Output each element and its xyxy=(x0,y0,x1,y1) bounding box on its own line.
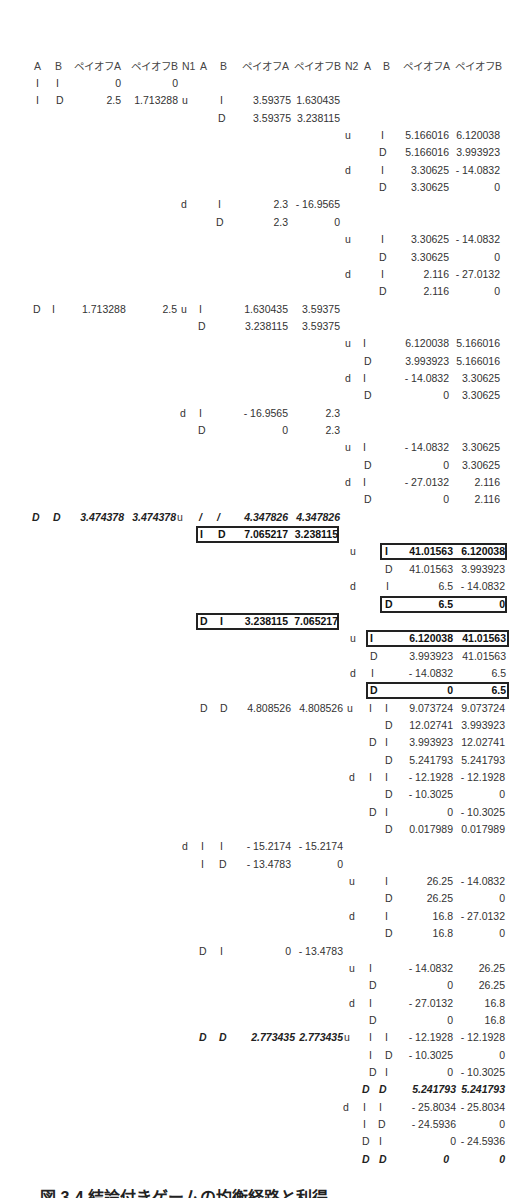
table-row: ID- 24.59360 xyxy=(0,1116,532,1133)
table-row: DI3.99392312.02741 xyxy=(0,734,532,751)
table-row: D3.99392341.01563 xyxy=(0,648,532,665)
table-cell: d xyxy=(181,196,187,213)
header-b3: B xyxy=(383,58,390,75)
table-cell: d xyxy=(345,162,351,179)
table-row: D16.80 xyxy=(0,925,532,942)
table-cell: u xyxy=(347,700,353,717)
table-row: dI2.116- 27.0132 xyxy=(0,266,532,283)
table-row: D5.1660163.993923 xyxy=(0,144,532,161)
table-row: D3.2381153.59375 xyxy=(0,318,532,335)
header-a2: A xyxy=(200,58,207,75)
table-cell: 1.713288 xyxy=(98,92,178,109)
table-cell: 6.120038 xyxy=(420,127,500,144)
table-cell: - 10.3025 xyxy=(425,804,505,821)
table-cell: 12.02741 xyxy=(425,734,505,751)
table-row: uI- 14.08323.30625 xyxy=(0,439,532,456)
header-a3: A xyxy=(364,58,371,75)
table-cell: - 25.8034 xyxy=(425,1099,505,1116)
table-row: D2.30 xyxy=(0,214,532,231)
table-cell: u xyxy=(345,335,351,352)
header-payoff-b1: ペイオフB xyxy=(131,58,178,75)
table-row: DI3.2381157.065217 xyxy=(0,613,532,630)
table-cell: I xyxy=(369,1047,372,1064)
table-row: dI16.8- 27.0132 xyxy=(0,908,532,925)
table-cell: - 27.0132 xyxy=(425,908,505,925)
table-cell: 4.347826 xyxy=(260,509,340,526)
table-cell: d xyxy=(345,266,351,283)
table-cell: I xyxy=(363,1099,366,1116)
table-cell: 3.59375 xyxy=(260,318,340,335)
table-cell: 3.993923 xyxy=(425,717,505,734)
table-cell: u xyxy=(345,439,351,456)
table-cell: 3.30625 xyxy=(420,457,500,474)
table-row: DD2.7734352.773435uII- 12.1928- 12.1928 xyxy=(0,1029,532,1046)
table-row: dI- 14.08326.5 xyxy=(0,665,532,682)
table-row: D02.3 xyxy=(0,422,532,439)
table-cell: u xyxy=(345,231,351,248)
table-row: D0.0179890.017989 xyxy=(0,821,532,838)
header-payoff-b3: ペイオフB xyxy=(455,58,502,75)
table-cell: - 12.1928 xyxy=(425,769,505,786)
table-cell: u xyxy=(350,543,356,560)
table-cell: 1.630435 xyxy=(260,92,340,109)
table-cell: - 24.5936 xyxy=(425,1133,505,1150)
table-cell: 0 xyxy=(425,1151,505,1168)
table-row: D026.25 xyxy=(0,977,532,994)
table-cell: 6.5 xyxy=(426,665,506,682)
table-cell: d xyxy=(180,405,186,422)
table-row: D3.306250 xyxy=(0,179,532,196)
table-cell: D xyxy=(198,318,206,335)
header-payoff-a1: ペイオフA xyxy=(74,58,121,75)
table-row: dII- 25.8034- 25.8034 xyxy=(0,1099,532,1116)
table-cell: 3.59375 xyxy=(260,301,340,318)
table-row: D3.9939235.166016 xyxy=(0,353,532,370)
table-row: DD00 xyxy=(0,1151,532,1168)
table-cell: 26.25 xyxy=(425,977,505,994)
table-cell: I xyxy=(369,960,372,977)
table-cell: - 12.1928 xyxy=(425,1029,505,1046)
table-cell: I xyxy=(201,856,204,873)
table-row: ID7.0652173.238115 xyxy=(0,526,532,543)
table-cell: 41.01563 xyxy=(426,648,506,665)
table-cell: 5.166016 xyxy=(420,353,500,370)
header-n2: N2 xyxy=(345,58,358,75)
table-cell: d xyxy=(345,370,351,387)
table-cell: I xyxy=(199,301,202,318)
table-cell: I xyxy=(199,405,202,422)
table-cell: 0 xyxy=(425,1047,505,1064)
table-cell: I xyxy=(363,1116,366,1133)
header-n1: N1 xyxy=(182,58,195,75)
table-row: ID- 13.47830 xyxy=(0,856,532,873)
table-cell: u xyxy=(350,630,356,647)
header-b2: B xyxy=(220,58,227,75)
table-cell: d xyxy=(350,665,356,682)
table-cell: u xyxy=(344,1029,350,1046)
table-row: uI41.015636.120038 xyxy=(0,543,532,560)
table-cell: - 13.4783 xyxy=(263,943,343,960)
table-cell: u xyxy=(349,873,355,890)
table-cell: 5.166016 xyxy=(420,335,500,352)
table-row: uI26.25- 14.0832 xyxy=(0,873,532,890)
table-cell: 0 xyxy=(260,214,340,231)
table-cell: D xyxy=(199,1029,207,1046)
table-row: dI- 16.95652.3 xyxy=(0,405,532,422)
table-cell: 26.25 xyxy=(425,960,505,977)
table-cell: 2.3 xyxy=(260,422,340,439)
table-cell: u xyxy=(181,301,187,318)
table-cell: 0 xyxy=(420,179,500,196)
table-cell: d xyxy=(350,578,356,595)
table-cell: 3.30625 xyxy=(420,370,500,387)
table-cell: d xyxy=(345,474,351,491)
table-cell: I xyxy=(52,301,55,318)
table-cell: I xyxy=(363,474,366,491)
table-row: D- 10.30250 xyxy=(0,786,532,803)
figure-caption: 図 3-4 結論付きゲームの均衡経路と利得 xyxy=(40,1186,500,1198)
header-payoff-a2: ペイオフA xyxy=(242,58,289,75)
table-cell: 2.5 xyxy=(97,301,177,318)
table-row: D2.1160 xyxy=(0,283,532,300)
table-cell: - 15.2174 xyxy=(263,838,343,855)
table-cell: 3.474378 xyxy=(96,509,176,526)
header-payoff-a3: ペイオフA xyxy=(403,58,450,75)
table-row: DD3.4743783.474378u//4.3478264.347826 xyxy=(0,509,532,526)
table-cell: I xyxy=(200,526,203,543)
